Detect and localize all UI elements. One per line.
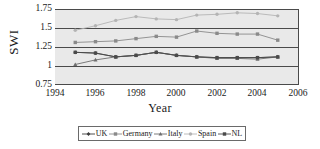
data-point xyxy=(74,29,77,32)
legend-swatch-nl xyxy=(218,130,231,138)
data-point xyxy=(276,38,279,41)
data-point xyxy=(175,35,178,38)
data-point xyxy=(236,56,239,59)
data-point xyxy=(276,14,279,17)
plot-area xyxy=(55,9,299,85)
plot-svg xyxy=(55,9,298,85)
data-point xyxy=(175,54,178,57)
data-point xyxy=(155,51,158,54)
data-point xyxy=(155,35,158,38)
data-point xyxy=(215,56,218,59)
y-axis-tick-labels: 1.75 1.5 1.25 1 0.75 xyxy=(14,0,52,95)
x-tick-label: 1996 xyxy=(75,88,115,98)
legend-item-uk[interactable]: UK xyxy=(82,130,108,138)
data-point xyxy=(222,132,225,135)
data-point xyxy=(113,132,116,135)
data-point xyxy=(94,40,97,43)
legend-label: NL xyxy=(232,130,243,138)
legend-swatch-germany xyxy=(109,130,122,138)
line-chart: SWI 1.75 1.5 1.25 1 0.75 1994 1996 1998 … xyxy=(0,0,320,149)
legend-item-germany[interactable]: Germany xyxy=(109,130,153,138)
data-point xyxy=(276,55,279,58)
data-point xyxy=(114,39,117,42)
series-italy xyxy=(73,50,280,66)
data-point xyxy=(74,51,77,54)
x-axis-tick-labels: 1994 1996 1998 2000 2002 2004 2006 xyxy=(0,88,320,102)
x-tick-label: 2004 xyxy=(237,88,277,98)
legend-item-italy[interactable]: Italy xyxy=(154,130,183,138)
y-tick-label: 1.25 xyxy=(18,42,52,51)
data-point xyxy=(134,37,137,40)
x-tick-label: 2000 xyxy=(156,88,196,98)
x-tick-label: 1998 xyxy=(116,88,156,98)
data-point xyxy=(195,29,198,32)
data-point xyxy=(74,41,77,44)
data-point xyxy=(195,13,198,16)
data-point xyxy=(134,15,137,18)
legend-label: Germany xyxy=(123,130,153,138)
data-point xyxy=(134,54,137,57)
series-nl xyxy=(74,51,280,60)
series-line xyxy=(75,13,278,30)
x-tick-label: 1994 xyxy=(35,88,75,98)
data-point xyxy=(86,132,90,136)
legend-label: Spain xyxy=(198,130,216,138)
y-tick-label: 1 xyxy=(18,61,52,70)
legend-item-nl[interactable]: NL xyxy=(218,130,243,138)
x-axis-title: Year xyxy=(0,101,320,116)
legend-swatch-uk xyxy=(82,130,95,138)
legend-swatch-spain xyxy=(184,130,197,138)
x-tick-label: 2006 xyxy=(278,88,318,98)
legend-item-spain[interactable]: Spain xyxy=(184,130,216,138)
data-point xyxy=(195,55,198,58)
data-point xyxy=(94,24,97,27)
data-point xyxy=(155,17,158,20)
x-tick-label: 2002 xyxy=(197,88,237,98)
y-tick-label: 1.75 xyxy=(18,4,52,13)
data-point xyxy=(256,56,259,59)
data-point xyxy=(215,13,218,16)
data-point xyxy=(114,55,117,58)
data-point xyxy=(114,19,117,22)
data-point xyxy=(256,32,259,35)
legend-label: UK xyxy=(96,130,108,138)
data-point xyxy=(94,51,97,54)
chart-legend: UKGermanyItalySpainNL xyxy=(78,126,246,141)
data-point xyxy=(236,11,239,14)
series-germany xyxy=(74,29,280,44)
legend-swatch-italy xyxy=(154,130,167,138)
data-series-layer xyxy=(73,11,280,66)
data-point xyxy=(175,18,178,21)
data-point xyxy=(256,12,259,15)
data-point xyxy=(215,32,218,35)
legend-label: Italy xyxy=(168,130,183,138)
data-point xyxy=(189,132,192,135)
y-tick-label: 1.5 xyxy=(18,23,52,32)
data-point xyxy=(236,32,239,35)
